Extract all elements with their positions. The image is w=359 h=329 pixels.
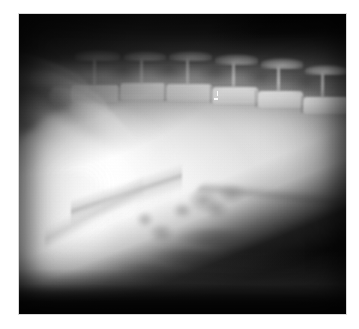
screenshot-root: [0, 0, 359, 329]
radiograph-plate: [19, 14, 346, 314]
film-vignette-overlay: [19, 14, 346, 314]
